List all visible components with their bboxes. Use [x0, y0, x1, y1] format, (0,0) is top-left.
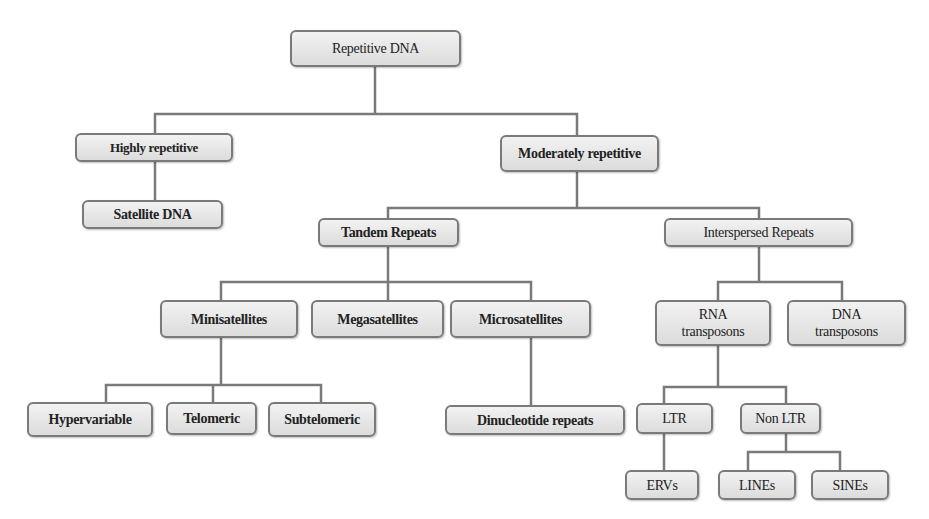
- node-label-line2: transposons: [815, 323, 878, 340]
- node-label: ERVs: [646, 477, 677, 494]
- node-label-line1: DNA: [832, 306, 861, 323]
- node-label-line1: RNA: [699, 306, 728, 323]
- node-subtelomeric: Subtelomeric: [268, 402, 376, 437]
- node-megasatellites: Megasatellites: [311, 300, 444, 338]
- node-telomeric: Telomeric: [166, 402, 257, 435]
- node-lines: LINEs: [718, 470, 796, 500]
- node-label: Interspersed Repeats: [703, 224, 813, 241]
- node-label: LINEs: [739, 477, 775, 494]
- node-interspersed-repeats: Interspersed Repeats: [664, 218, 853, 247]
- connector-lines: [0, 0, 929, 519]
- node-label: Non LTR: [755, 410, 806, 427]
- node-non-ltr: Non LTR: [740, 403, 821, 434]
- node-label-line2: transposons: [682, 323, 745, 340]
- node-label: LTR: [662, 410, 686, 427]
- node-label: Microsatellites: [479, 311, 562, 328]
- node-label: Repetitive DNA: [332, 40, 419, 57]
- node-label: Telomeric: [183, 410, 240, 427]
- node-microsatellites: Microsatellites: [450, 300, 591, 338]
- node-dinucleotide-repeats: Dinucleotide repeats: [445, 405, 625, 435]
- node-tandem-repeats: Tandem Repeats: [318, 218, 459, 247]
- node-highly-repetitive: Highly repetitive: [75, 133, 233, 162]
- node-label: Minisatellites: [191, 311, 267, 328]
- node-sines: SINEs: [811, 470, 889, 500]
- node-dna-transposons: DNA transposons: [787, 300, 906, 346]
- node-label: Megasatellites: [337, 311, 418, 328]
- node-label: Highly repetitive: [110, 139, 198, 156]
- node-label: Tandem Repeats: [341, 224, 436, 241]
- repetitive-dna-tree-diagram: Repetitive DNA Highly repetitive Satelli…: [0, 0, 929, 519]
- node-minisatellites: Minisatellites: [160, 300, 298, 338]
- node-hypervariable: Hypervariable: [27, 402, 153, 437]
- node-repetitive-dna: Repetitive DNA: [290, 30, 461, 67]
- node-rna-transposons: RNA transposons: [655, 300, 771, 346]
- node-satellite-dna: Satellite DNA: [82, 200, 223, 229]
- node-label: Subtelomeric: [284, 411, 360, 428]
- node-label: Moderately repetitive: [518, 145, 641, 162]
- node-moderately-repetitive: Moderately repetitive: [500, 135, 659, 172]
- node-ervs: ERVs: [625, 470, 699, 500]
- node-label: Satellite DNA: [113, 206, 191, 223]
- node-label: Hypervariable: [48, 411, 131, 428]
- node-ltr: LTR: [636, 403, 713, 434]
- node-label: SINEs: [832, 477, 867, 494]
- node-label: Dinucleotide repeats: [477, 412, 593, 429]
